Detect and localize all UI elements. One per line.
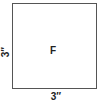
left-side-dimension-label: 3″ [0, 42, 12, 62]
square-center-label: F [50, 45, 56, 57]
bottom-side-dimension-label: 3″ [44, 91, 68, 103]
